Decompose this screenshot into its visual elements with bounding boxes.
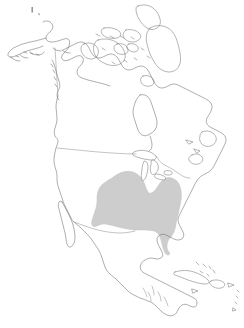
- map-canvas: [0, 0, 244, 328]
- lake-ontario-outline: [164, 171, 172, 175]
- range-map-figure: [0, 0, 244, 328]
- wrangel-island-mark: [32, 7, 33, 13]
- map-background: [0, 0, 244, 328]
